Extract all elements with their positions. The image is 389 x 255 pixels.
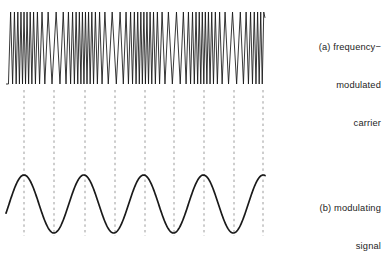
caption-a-line-3: carrier — [271, 117, 381, 130]
modulating-signal-trace — [6, 175, 265, 233]
caption-frequency-modulated-carrier: (a) frequency− modulated carrier — [271, 15, 381, 156]
caption-b-line-1: (b) modulating — [271, 202, 381, 215]
alignment-guide-lines — [24, 90, 263, 236]
caption-b-line-2: signal — [271, 240, 381, 253]
caption-a-line-1: (a) frequency− — [271, 41, 381, 54]
caption-modulating-signal: (b) modulating signal — [271, 176, 381, 255]
fm-carrier-trace — [6, 12, 265, 84]
caption-a-line-2: modulated — [271, 79, 381, 92]
modulating-sine-waveform — [6, 175, 265, 233]
fm-carrier-waveform — [6, 12, 265, 84]
